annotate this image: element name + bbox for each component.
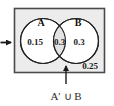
value-intersection: 0.3 xyxy=(54,37,66,47)
value-outside: 0.25 xyxy=(82,61,98,71)
value-a-only: 0.15 xyxy=(27,37,43,47)
set-a-label: A xyxy=(37,17,45,28)
value-b-only: 0.3 xyxy=(73,37,85,47)
set-b-label: B xyxy=(75,17,82,28)
venn-diagram-figure: A B 0.15 0.3 0.3 0.25 A′ ∪ B xyxy=(0,0,114,106)
caption-text: A′ ∪ B xyxy=(50,90,81,102)
venn-diagram-canvas: A B 0.15 0.3 0.3 0.25 A′ ∪ B xyxy=(0,0,114,106)
